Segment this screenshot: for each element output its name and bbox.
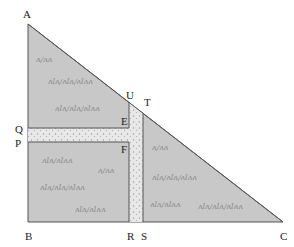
label-t: T [144,96,151,108]
grass-mark: ʌlʌ/ʌlʌ/ʌlʌʌ [152,173,197,182]
label-a: A [23,8,31,20]
grass-mark: ʌ/ʌʌ [36,55,53,64]
grass-mark: ʌlʌ/ʌlʌ/ʌlʌʌ [48,77,93,86]
label-p: P [15,137,21,149]
grass-mark: ʌlʌ/ʌlʌʌ [75,205,106,214]
label-q: Q [15,123,23,135]
label-e: E [121,115,128,127]
horizontal-path [28,128,143,142]
grass-mark: ʌ/ʌʌ [152,143,169,152]
grass-mark: ʌlʌ/ʌlʌʌ [42,156,73,165]
label-r: R [127,230,135,242]
triangle-field-diagram: ʌ/ʌʌ ʌlʌ/ʌlʌ/ʌlʌʌ ʌlʌ/ʌlʌ/ʌlʌʌ ʌlʌ/ʌlʌʌ … [0,0,294,247]
grass-mark: ʌlʌ/ʌlʌʌ [150,200,181,209]
grass-mark: ʌlʌ/ʌlʌ/ʌlʌʌ [55,104,100,113]
grass-mark: ʌlʌ/ʌlʌ/ʌlʌʌ [198,202,243,211]
label-u: U [126,89,134,101]
label-f: F [121,143,127,155]
label-c: C [280,230,287,242]
grass-mark: ʌlʌ/ʌlʌ/ʌlʌʌ [40,183,85,192]
label-b: B [25,230,32,242]
grass-mark: ʌ/ʌʌ [98,166,115,175]
vertical-path [129,102,143,222]
label-s: S [141,230,147,242]
